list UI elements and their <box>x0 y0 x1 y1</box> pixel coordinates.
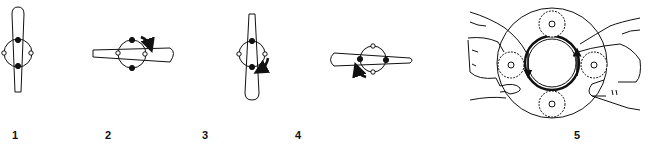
step-label-1: 1 <box>5 129 25 141</box>
figure-3-vertical-handle <box>237 14 268 100</box>
step-label-4: 4 <box>288 129 308 141</box>
figure-1-vertical-handle <box>2 7 33 92</box>
step-label-2: 2 <box>98 129 118 141</box>
figure-4-horizontal-handle <box>331 44 413 77</box>
figure-5-hands-with-gears <box>468 8 641 118</box>
counterclockwise-arrow-icon <box>357 69 366 77</box>
step-label-5: 5 <box>567 129 587 141</box>
diagram-canvas <box>0 0 652 148</box>
figure-2-horizontal-handle <box>93 37 174 71</box>
step-label-3: 3 <box>195 129 215 141</box>
